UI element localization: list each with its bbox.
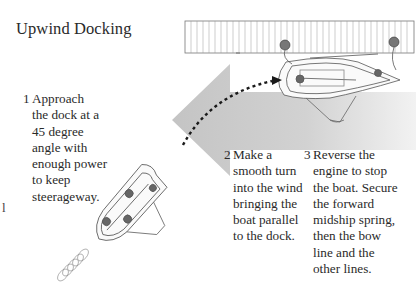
step-text-line: 45 degree — [32, 124, 107, 140]
step-text-line: Approach — [32, 91, 107, 107]
step-text-line: the dock at a — [32, 107, 107, 123]
step-text-line: smooth turn — [233, 163, 303, 179]
step-text-line: Reverse the — [313, 147, 398, 163]
prop-wash-icon — [55, 247, 90, 283]
step-text-line: to keep — [32, 172, 107, 188]
step-text-line: enough power — [32, 156, 107, 172]
step-number: 3 — [304, 147, 311, 163]
dock — [185, 21, 414, 54]
step-number: 2 — [224, 147, 231, 163]
step-text-line: then the bow — [313, 228, 398, 244]
step-text-line: midship spring, — [313, 212, 398, 228]
step-text-line: engine to stop — [313, 163, 398, 179]
page-title: Upwind Docking — [16, 19, 132, 39]
step-text-line: Make a — [233, 147, 303, 163]
step-text-line: bringing the — [233, 196, 303, 212]
stray-mark: l — [2, 200, 6, 216]
step-text-line: into the wind — [233, 180, 303, 196]
step-text-line: to the dock. — [233, 228, 303, 244]
step-text-line: boat parallel — [233, 212, 303, 228]
step-text-line: angle with — [32, 140, 107, 156]
step-2: 2 Make a smooth turn into the wind bring… — [233, 147, 303, 245]
step-text-line: the boat. Secure — [313, 180, 398, 196]
step-number: 1 — [23, 91, 30, 107]
step-text-line: other lines. — [313, 261, 398, 277]
step-1: 1 Approach the dock at a 45 degree angle… — [32, 91, 107, 205]
step-text-line: line and the — [313, 245, 398, 261]
step-text-line: the forward — [313, 196, 398, 212]
step-3: 3 Reverse the engine to stop the boat. S… — [313, 147, 398, 277]
step-text-line: steerageway. — [32, 189, 107, 205]
